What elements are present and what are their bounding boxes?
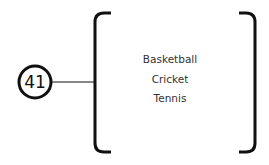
node-number: 41 (18, 65, 52, 99)
group-item-cricket: Cricket (110, 70, 230, 90)
group-items: Basketball Cricket Tennis (110, 50, 230, 109)
group-item-tennis: Tennis (110, 89, 230, 109)
group-item-basketball: Basketball (110, 50, 230, 70)
right-bracket (239, 13, 255, 152)
left-bracket (95, 13, 111, 152)
